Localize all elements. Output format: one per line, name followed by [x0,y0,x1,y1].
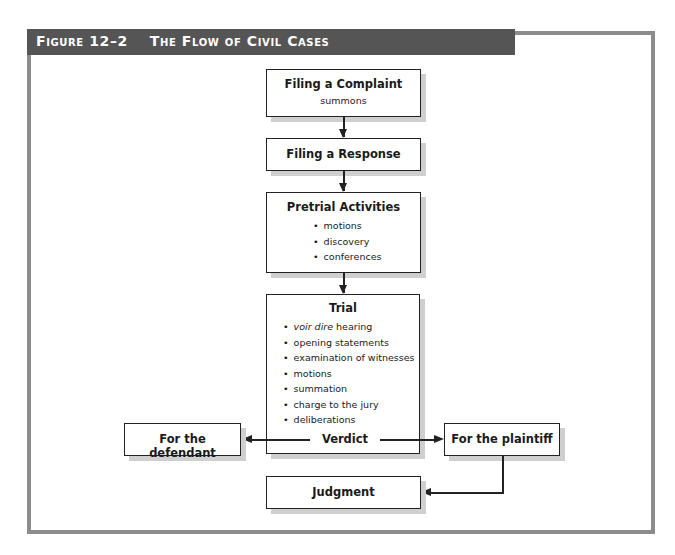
plaintiff-judgment-line-left [430,492,504,494]
plaintiff-judgment-line-down [502,456,504,493]
verdict-label: Verdict [310,432,380,446]
node-title: Trial [267,301,419,315]
list-item: opening statements [283,335,419,351]
node-pretrial-activities: Pretrial Activities motions discovery co… [266,192,421,273]
arrow-down-icon [343,171,345,191]
node-for-plaintiff: For the plaintiff [444,423,560,456]
arrow-down-icon [343,117,345,137]
node-title: Pretrial Activities [267,200,420,214]
figure-title: The Flow of Civil Cases [150,33,330,49]
node-trial: Trial voir dire hearing opening statemen… [266,294,420,454]
figure-header: Figure 12–2The Flow of Civil Cases [27,29,515,55]
list-item: motions [313,218,420,234]
list-item: deliberations [283,412,419,428]
trial-list: voir dire hearing opening statements exa… [283,319,419,428]
figure-number: Figure 12–2 [36,33,128,49]
arrow-right-icon [434,435,444,443]
list-item: motions [283,366,419,382]
arrow-left-icon [242,435,252,443]
node-title: For the defendant [125,432,240,460]
node-title: For the plaintiff [445,432,559,446]
list-item: conferences [313,249,420,265]
arrow-left-icon [421,488,431,496]
node-title: Filing a Response [267,147,420,161]
node-filing-response: Filing a Response [266,138,421,171]
node-title: Judgment [267,485,420,499]
list-item: summation [283,381,419,397]
list-item: examination of witnesses [283,350,419,366]
list-item: discovery [313,234,420,250]
list-item: charge to the jury [283,397,419,413]
node-judgment: Judgment [266,476,421,509]
list-item: voir dire hearing [283,319,419,335]
pretrial-list: motions discovery conferences [313,218,420,265]
node-filing-complaint: Filing a Complaint summons [266,69,421,117]
node-title: Filing a Complaint [267,77,420,91]
node-subtitle: summons [267,95,420,106]
verdict-line-left [250,439,316,441]
node-for-defendant: For the defendant [124,423,241,456]
verdict-line-right [374,439,436,441]
arrow-down-icon [343,273,345,293]
